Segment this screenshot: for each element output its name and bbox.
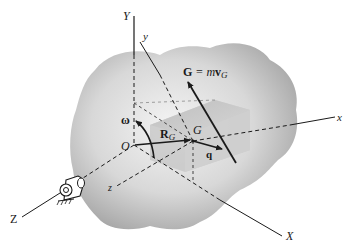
label-G-point: G: [193, 123, 202, 137]
label-momentum-eq: = m: [192, 65, 215, 79]
label-momentum-sub: G: [221, 70, 228, 80]
label-x: x: [336, 111, 342, 123]
label-y: y: [142, 30, 148, 42]
label-X: X: [285, 229, 294, 243]
label-z: z: [107, 182, 112, 193]
center-of-mass-point: [191, 139, 194, 142]
label-q: q: [206, 148, 213, 160]
label-O: O: [121, 139, 130, 153]
label-omega: ω: [121, 113, 130, 127]
rigid-body-diagram: Y y x X Z z O G ω RG q G = mvG: [0, 0, 351, 250]
label-Z: Z: [10, 212, 17, 226]
X-axis-line: [220, 200, 282, 236]
bearing-icon: [57, 176, 85, 205]
label-momentum-G: G: [183, 65, 192, 79]
label-R: R: [160, 127, 169, 141]
label-R-sub: G: [169, 132, 176, 142]
Z-axis-line: [22, 193, 60, 217]
label-Y: Y: [123, 9, 131, 23]
